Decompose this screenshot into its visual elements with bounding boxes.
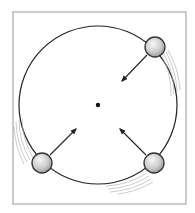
diagram-canvas <box>0 0 195 213</box>
force-arrow-bottom-left <box>50 129 76 155</box>
circular-motion-diagram <box>0 0 195 213</box>
ball-top-right <box>145 37 165 57</box>
motion-lines-bottom-right <box>106 173 153 194</box>
ball-bottom-right <box>144 153 164 173</box>
force-arrow-top-right <box>122 55 147 81</box>
motion-lines-top-right <box>162 50 180 96</box>
center-point <box>96 103 100 107</box>
force-arrow-bottom-right <box>120 129 146 155</box>
ball-bottom-left <box>32 153 52 173</box>
motion-lines-bottom-left <box>14 118 33 164</box>
